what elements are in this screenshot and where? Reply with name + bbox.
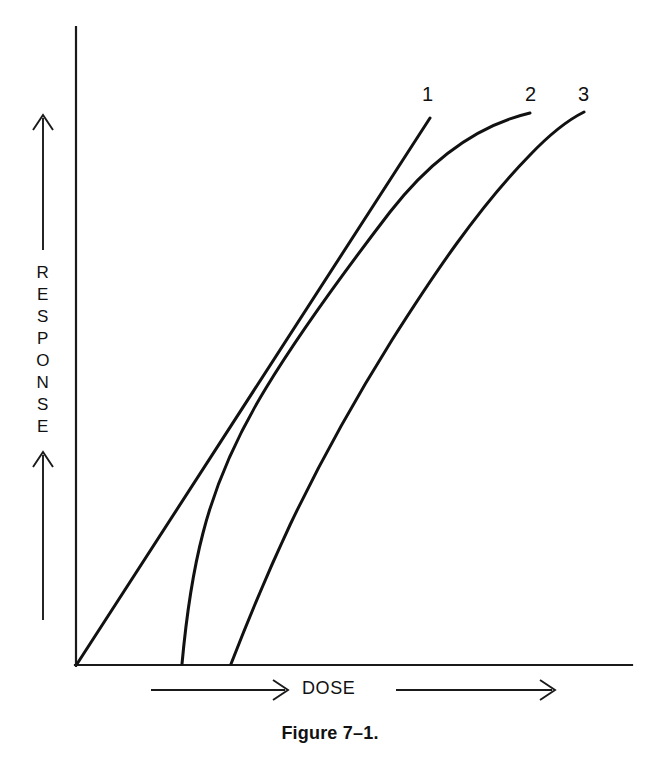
y-axis-label-letter: S [28, 306, 58, 328]
figure-container: 1 2 3 R E S P O N S E DOSE Figure 7–1. [0, 0, 660, 759]
y-axis-arrow-lower [33, 452, 53, 620]
curve-label-1: 1 [422, 84, 433, 104]
y-axis-label-letter: R [28, 262, 58, 284]
y-axis-arrow-upper [33, 115, 53, 250]
x-axis-label: DOSE [302, 679, 355, 697]
axis-group [75, 27, 632, 666]
x-axis-arrow-left [151, 680, 288, 700]
y-axis-label-letter: E [28, 416, 58, 438]
curve-3-path [231, 112, 584, 664]
curve-2-path [182, 113, 530, 664]
curve-label-3: 3 [578, 84, 589, 104]
y-axis-label-letter: O [28, 350, 58, 372]
dose-response-plot [0, 0, 660, 759]
x-axis-arrow-right [396, 680, 555, 700]
y-axis-label-letter: E [28, 284, 58, 306]
curve-1-path [77, 118, 430, 664]
y-axis-label-letter: P [28, 328, 58, 350]
y-axis-label-letter: S [28, 394, 58, 416]
figure-caption: Figure 7–1. [0, 724, 660, 742]
y-axis-label: R E S P O N S E [28, 262, 58, 438]
curve-label-2: 2 [525, 84, 536, 104]
y-axis-label-letter: N [28, 372, 58, 394]
